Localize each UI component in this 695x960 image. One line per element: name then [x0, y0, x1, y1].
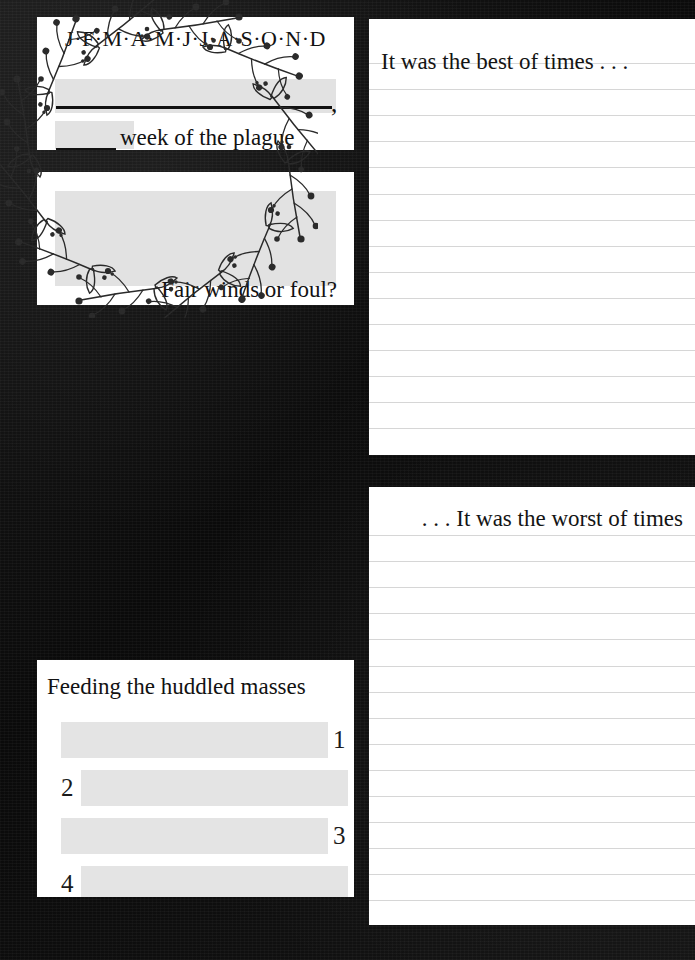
rule-line — [369, 115, 695, 116]
feeding-write-bar[interactable] — [81, 866, 348, 897]
feeding-row-number: 4 — [61, 870, 74, 897]
feeding-write-bar[interactable] — [81, 770, 348, 806]
rule-line — [369, 613, 695, 614]
best-of-times-panel[interactable]: It was the best of times . . . — [369, 19, 695, 455]
rule-line — [369, 428, 695, 429]
list-item: 3 — [37, 818, 354, 854]
rule-line — [369, 402, 695, 403]
floral-wreath-icon — [0, 0, 318, 318]
rule-line — [369, 666, 695, 667]
rule-line — [369, 376, 695, 377]
rule-line — [369, 350, 695, 351]
rule-line — [369, 848, 695, 849]
feeding-write-bar[interactable] — [61, 722, 328, 758]
rule-line — [369, 692, 695, 693]
feeding-title: Feeding the huddled masses — [47, 674, 306, 700]
rule-line — [369, 220, 695, 221]
rule-line — [369, 246, 695, 247]
list-item: 1 — [37, 722, 354, 758]
feeding-row-number: 1 — [333, 726, 346, 755]
rule-line — [369, 770, 695, 771]
list-item: 2 — [37, 770, 354, 806]
rule-line — [369, 89, 695, 90]
worst-of-times-panel[interactable]: . . . It was the worst of times — [369, 487, 695, 925]
rule-line — [369, 194, 695, 195]
best-of-times-heading: It was the best of times . . . — [369, 49, 695, 75]
rule-line — [369, 298, 695, 299]
rule-line — [369, 639, 695, 640]
rule-line — [369, 167, 695, 168]
rule-line — [369, 718, 695, 719]
feeding-write-bar[interactable] — [61, 818, 328, 854]
rule-line — [369, 272, 695, 273]
rule-line — [369, 796, 695, 797]
feeding-row-number: 3 — [333, 822, 346, 851]
rule-line — [369, 874, 695, 875]
rule-line — [369, 535, 695, 536]
rule-line — [369, 141, 695, 142]
rule-line — [369, 587, 695, 588]
rule-line — [369, 822, 695, 823]
ruled-lines — [369, 19, 695, 455]
comma-mark: , — [331, 91, 337, 116]
rule-line — [369, 455, 695, 456]
list-item: 4 — [37, 866, 354, 897]
rule-line — [369, 324, 695, 325]
feeding-row-number: 2 — [61, 774, 74, 803]
ruled-lines — [369, 487, 695, 925]
rule-line — [369, 561, 695, 562]
worst-of-times-heading: . . . It was the worst of times — [369, 506, 695, 532]
wreath-card — [0, 0, 318, 318]
feeding-card: Feeding the huddled masses 1 2 3 4 — [37, 660, 354, 897]
rule-line — [369, 900, 695, 901]
rule-line — [369, 744, 695, 745]
